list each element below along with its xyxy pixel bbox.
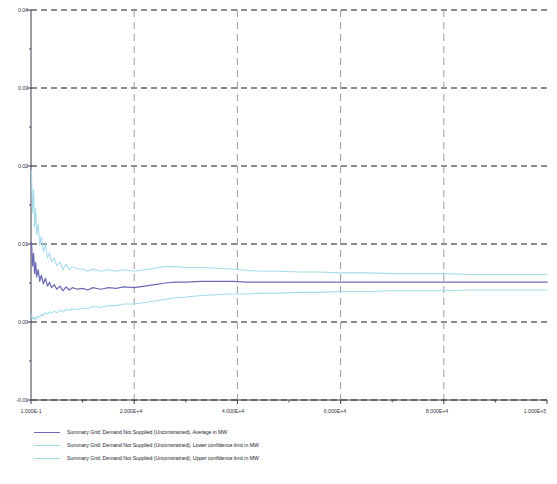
legend-line-swatch-average [34, 432, 60, 433]
x-tick-label: 1.000E-1 [20, 408, 41, 415]
x-tick-label: 1.000E+5 [524, 408, 546, 415]
y-tick-label: -0.01 [16, 397, 28, 403]
plot-area: 0.04 0.03 0.02 0.01 0.00 -0.01 1.000E-1 … [0, 0, 557, 425]
y-tick-label: 0.02 [18, 163, 28, 169]
x-tick-label: 2.000E+4 [120, 408, 142, 415]
x-tick-label: 4.000E+4 [222, 408, 244, 415]
y-tick-label: 0.01 [18, 241, 28, 247]
legend-label: Summary Grid: Demand Not Supplied (Uncon… [67, 455, 259, 462]
legend-label: Summary Grid: Demand Not Supplied (Uncon… [67, 429, 227, 436]
legend-item[interactable]: Summary Grid: Demand Not Supplied (Uncon… [34, 426, 434, 439]
plot-svg [0, 0, 557, 425]
chart-container: 0.04 0.03 0.02 0.01 0.00 -0.01 1.000E-1 … [0, 0, 557, 484]
legend-label: Summary Grid: Demand Not Supplied (Uncon… [67, 442, 259, 449]
y-tick-label: 0.00 [18, 319, 28, 325]
legend-line-swatch-lower [34, 445, 60, 446]
x-tick-label: 8.000E+4 [426, 408, 448, 415]
legend-line-swatch-upper [34, 458, 60, 459]
chart-legend: Summary Grid: Demand Not Supplied (Uncon… [34, 426, 434, 465]
legend-item[interactable]: Summary Grid: Demand Not Supplied (Uncon… [34, 439, 434, 452]
x-tick-label: 6.000E+4 [324, 408, 346, 415]
y-axis-tick-labels: 0.04 0.03 0.02 0.01 0.00 -0.01 [0, 0, 30, 405]
y-tick-label: 0.04 [18, 7, 28, 13]
legend-item[interactable]: Summary Grid: Demand Not Supplied (Uncon… [34, 452, 434, 465]
y-tick-label: 0.03 [18, 85, 28, 91]
x-axis-tick-labels: 1.000E-1 2.000E+4 4.000E+4 6.000E+4 8.00… [0, 406, 557, 424]
